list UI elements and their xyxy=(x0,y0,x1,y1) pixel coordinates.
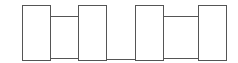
tall-box-3 xyxy=(135,5,164,61)
tall-box-2 xyxy=(78,5,107,61)
baseline-line xyxy=(106,59,136,60)
tall-box-1 xyxy=(22,5,51,61)
connector-box-2 xyxy=(163,16,199,59)
connector-box-1 xyxy=(50,16,79,59)
tall-box-4 xyxy=(198,5,227,61)
